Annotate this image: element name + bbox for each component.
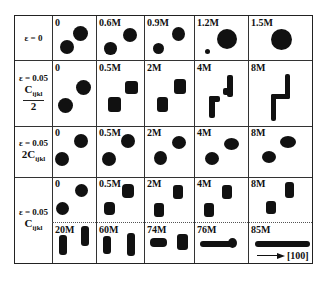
particle — [127, 233, 135, 256]
particle — [222, 185, 232, 199]
time-label: 0 — [55, 18, 60, 28]
time-label: 0 — [55, 128, 60, 138]
microstructure-evolution-figure: ε = 0 ε = 0.05 Cijkl 2 ε = 0.05 2Cijkl ε… — [14, 15, 313, 264]
row-label-c: Cijkl — [24, 218, 42, 234]
arrow-right-icon — [277, 253, 285, 259]
fraction-numerator: Cijkl — [23, 84, 43, 101]
particle — [81, 226, 89, 246]
particle — [255, 241, 310, 247]
time-label: 4M — [197, 179, 211, 189]
particle — [271, 94, 276, 121]
row-label-c: ε = 0.05 Cijkl — [15, 177, 52, 265]
arrow-shaft-icon — [257, 255, 277, 256]
particle — [157, 97, 168, 112]
particle — [172, 136, 186, 149]
particle — [74, 134, 88, 148]
particle — [76, 80, 91, 95]
column-divider — [144, 16, 145, 263]
time-label: 20M — [55, 225, 74, 235]
time-label: 76M — [197, 225, 216, 235]
direction-indicator: [100] — [257, 250, 309, 261]
row-label-text: ε = 0 — [25, 33, 43, 44]
time-label: 60M — [99, 225, 118, 235]
particle — [266, 201, 276, 214]
subscript: ijkl — [32, 225, 42, 233]
particle — [174, 79, 186, 94]
column-divider — [52, 16, 53, 263]
particle — [154, 203, 164, 217]
particle — [154, 151, 167, 165]
row-label-eps: ε = 0.05 — [19, 207, 48, 218]
column-divider — [248, 16, 249, 263]
particle — [205, 152, 219, 165]
particle — [209, 96, 220, 102]
particle — [122, 184, 134, 198]
time-label: 8M — [251, 63, 265, 73]
time-label: 0.5M — [99, 128, 121, 138]
time-label: 8M — [251, 179, 265, 189]
particle — [173, 185, 183, 199]
subscript: ijkl — [32, 90, 42, 98]
time-label: 74M — [147, 225, 166, 235]
particle — [262, 151, 276, 163]
particle — [73, 26, 88, 41]
particle — [58, 98, 73, 113]
column-divider — [96, 16, 97, 263]
time-label: 4M — [197, 128, 211, 138]
particle — [177, 234, 188, 250]
particle — [123, 28, 137, 42]
particle — [59, 235, 67, 255]
fraction: Cijkl 2 — [23, 84, 43, 113]
particle — [104, 42, 117, 55]
row-label-c: 2Cijkl — [22, 149, 46, 165]
time-label: 0 — [55, 63, 60, 73]
particle — [56, 202, 69, 215]
time-label: 1.5M — [251, 18, 273, 28]
particle — [75, 184, 88, 197]
particle — [150, 238, 167, 247]
particle — [204, 203, 214, 217]
particle — [224, 138, 239, 150]
row-label-eps0: ε = 0 — [15, 16, 52, 60]
particle — [55, 152, 69, 166]
time-label: 2M — [147, 179, 161, 189]
direction-label: [100] — [287, 250, 309, 261]
fraction-denominator: 2 — [31, 100, 37, 112]
particle — [125, 81, 138, 94]
time-label: 85M — [251, 225, 270, 235]
subscript: ijkl — [35, 155, 45, 163]
particle — [103, 236, 111, 254]
time-label: 0.6M — [99, 18, 121, 28]
c-symbol: 2C — [22, 148, 35, 160]
row-label-half-c: ε = 0.05 Cijkl 2 — [15, 60, 52, 126]
time-label: 2M — [147, 128, 161, 138]
particle — [228, 238, 237, 248]
dotted-divider — [52, 222, 312, 223]
particle — [121, 134, 135, 148]
particle — [102, 152, 116, 166]
row-divider — [15, 60, 312, 61]
particle — [285, 182, 294, 198]
time-label: 2M — [147, 63, 161, 73]
time-label: 8M — [251, 128, 265, 138]
particle — [271, 29, 292, 50]
particle — [108, 97, 121, 112]
time-label: 0.5M — [99, 63, 121, 73]
row-label-2c: ε = 0.05 2Cijkl — [15, 126, 52, 177]
particle — [153, 43, 164, 54]
particle — [205, 49, 210, 54]
particle — [280, 136, 296, 148]
time-label: 0 — [55, 179, 60, 189]
particle — [172, 27, 185, 41]
particle — [104, 202, 115, 215]
particle — [217, 29, 237, 49]
particle — [60, 40, 74, 54]
time-label: 4M — [197, 63, 211, 73]
row-label-eps: ε = 0.05 — [19, 73, 48, 84]
particle — [223, 88, 233, 95]
time-label: 1.2M — [197, 18, 219, 28]
time-label: 0.5M — [99, 179, 121, 189]
time-label: 0.9M — [147, 18, 169, 28]
column-divider — [194, 16, 195, 263]
